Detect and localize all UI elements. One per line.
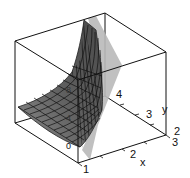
x-tick-3: 3 [172,136,178,148]
y-tick-2: 2 [174,125,180,137]
z-tick-4: 4 [66,113,71,123]
surface-plot: 1 2 3 x 2 3 4 y 0 4 8 [0,0,190,178]
x-axis-label: x [140,156,146,168]
plot-canvas: 1 2 3 x 2 3 4 y 0 4 8 [0,0,190,178]
y-tick-3: 3 [146,108,152,120]
x-tick-1: 1 [83,163,89,175]
z-tick-0: 0 [66,141,71,151]
y-axis-label: y [162,103,168,115]
y-tick-4: 4 [116,88,122,100]
x-tick-2: 2 [130,148,136,160]
z-tick-8: 8 [66,85,71,95]
